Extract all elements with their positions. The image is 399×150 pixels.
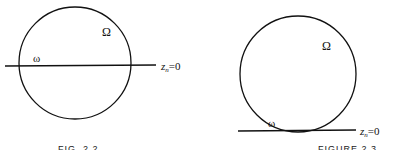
plane-line [238, 130, 356, 131]
boundary-label: ω [33, 52, 40, 64]
figure-caption: FIGURE 2.3 [318, 144, 377, 150]
figure-1: Ω ω zn=0 FIG. 2.2 [5, 7, 181, 150]
plane-label: zn=0 [359, 125, 380, 139]
diagram-canvas: Ω ω zn=0 FIG. 2.2 Ω ω zn=0 FIGURE 2.3 [0, 0, 399, 150]
plane-line [5, 65, 156, 66]
region-label: Ω [322, 39, 331, 53]
figure-2: Ω ω zn=0 FIGURE 2.3 [238, 16, 380, 150]
plane-label: zn=0 [160, 60, 181, 74]
figure-caption: FIG. 2.2 [58, 144, 99, 150]
boundary-label: ω [268, 117, 275, 129]
domain-circle [240, 16, 356, 132]
region-label: Ω [102, 25, 111, 39]
